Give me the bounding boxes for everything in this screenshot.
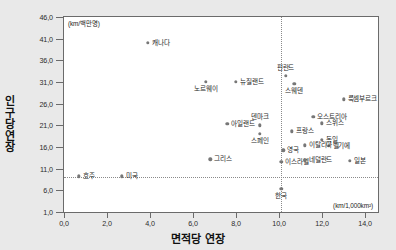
- y-axis-tick: [56, 60, 64, 61]
- y-axis-tick-label: 41,0: [39, 35, 53, 44]
- y-axis-tick-label: 26,0: [39, 100, 53, 109]
- data-point[interactable]: [312, 115, 315, 118]
- data-point-label: 그리스: [214, 156, 232, 163]
- data-point[interactable]: [204, 80, 207, 83]
- data-point-label: 호주: [83, 173, 95, 180]
- data-point-label: 한국: [275, 193, 287, 200]
- x-axis-unit: (km/1,000km²): [333, 202, 373, 209]
- data-point-label: 덴마크: [251, 115, 269, 122]
- x-axis-tick-label: 6,0: [177, 219, 209, 228]
- plot-area: (km/백만명) (km/1,000km²) 46,041,036,031,02…: [63, 16, 379, 213]
- data-point[interactable]: [209, 157, 212, 160]
- data-point[interactable]: [258, 132, 261, 135]
- y-axis-tick-label: 1,0: [43, 208, 53, 217]
- x-axis-tick: [107, 212, 108, 218]
- y-axis-tick: [56, 125, 64, 126]
- y-axis-tick: [56, 147, 64, 148]
- data-point[interactable]: [303, 144, 306, 147]
- x-axis-tick-label: 2,0: [91, 219, 123, 228]
- x-axis-tick: [236, 212, 237, 218]
- data-point-label: 뉴질랜드: [240, 79, 263, 86]
- data-point-label: 이탈리아: [309, 142, 332, 149]
- chart-root: 인구당 연장 (km/백만명) (km/1,000km²) 46,041,036…: [0, 0, 396, 250]
- y-axis-tick: [56, 39, 64, 40]
- data-point-label: 핀란드: [277, 65, 295, 72]
- y-axis-tick: [56, 17, 64, 18]
- data-point[interactable]: [320, 121, 323, 124]
- data-point[interactable]: [290, 130, 293, 133]
- y-axis-tick-label: 16,0: [39, 143, 53, 152]
- y-axis-tick-label: 46,0: [39, 13, 53, 22]
- x-axis-tick: [279, 212, 280, 218]
- y-axis-tick-label: 21,0: [39, 121, 53, 130]
- data-point[interactable]: [348, 159, 351, 162]
- x-axis-tick-label: 8,0: [220, 219, 252, 228]
- reference-line-vertical: [281, 17, 282, 212]
- x-axis-tick: [322, 212, 323, 218]
- x-axis-tick-label: 10,0: [263, 219, 295, 228]
- data-point-label: 일본: [354, 158, 366, 165]
- data-point-label: 스위스: [326, 120, 344, 127]
- y-axis-title: 인구당 연장: [2, 96, 18, 154]
- data-point-label: 프랑스: [296, 128, 314, 135]
- y-axis-tick: [56, 82, 64, 83]
- x-axis-tick: [64, 212, 65, 218]
- x-axis-tick: [150, 212, 151, 218]
- y-axis-tick-label: 6,0: [43, 186, 53, 195]
- data-point[interactable]: [292, 82, 295, 85]
- x-axis-tick-label: 0,0: [48, 219, 80, 228]
- y-axis-tick: [56, 190, 64, 191]
- data-point[interactable]: [282, 149, 285, 152]
- data-point-label: 스페인: [251, 138, 269, 145]
- y-axis-tick-label: 36,0: [39, 56, 53, 65]
- y-axis-tick-label: 11,0: [40, 165, 53, 174]
- data-point-label: 미국: [126, 173, 138, 180]
- data-point-label: 캐나다: [152, 40, 170, 47]
- x-axis-title: 면적당 연장: [0, 230, 396, 246]
- x-axis-tick: [193, 212, 194, 218]
- data-point-label: 룩셈부르크: [348, 96, 377, 103]
- y-axis-tick: [56, 169, 64, 170]
- x-axis-tick-label: 4,0: [134, 219, 166, 228]
- y-axis-tick: [56, 104, 64, 105]
- data-point[interactable]: [226, 122, 229, 125]
- x-axis-tick-label: 12,0: [306, 219, 338, 228]
- data-point[interactable]: [146, 41, 149, 44]
- x-axis-tick: [365, 212, 366, 218]
- reference-line-horizontal: [64, 177, 378, 178]
- data-point[interactable]: [280, 187, 283, 190]
- y-axis-unit: (km/백만명): [68, 19, 100, 28]
- data-point[interactable]: [342, 98, 345, 101]
- data-point-label: 네덜란드: [309, 157, 332, 164]
- data-point[interactable]: [234, 80, 237, 83]
- data-point-label: 영국: [287, 147, 299, 154]
- data-point[interactable]: [258, 124, 261, 127]
- data-point-label: 스웨덴: [285, 88, 303, 95]
- data-point-label: 노르웨이: [194, 86, 217, 93]
- y-axis-tick: [56, 212, 64, 213]
- y-axis-tick-label: 31,0: [39, 78, 53, 87]
- x-axis-tick-label: 14,0: [349, 219, 381, 228]
- data-point[interactable]: [280, 160, 283, 163]
- data-point-label: 벨기에: [333, 142, 351, 149]
- data-point[interactable]: [284, 74, 287, 77]
